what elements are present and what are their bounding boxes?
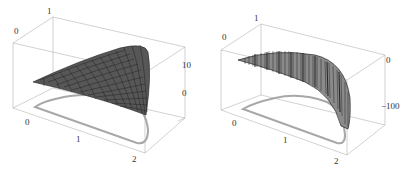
y-tick-0: 0 — [14, 26, 19, 36]
z-tick-10: 10 — [182, 60, 192, 70]
x-tick-2: 2 — [132, 154, 137, 164]
y-tick-0: 0 — [222, 32, 227, 42]
bounding-box — [221, 24, 385, 155]
z-tick-0: 0 — [182, 88, 187, 98]
x-tick-0: 0 — [25, 117, 30, 127]
surface-plot-left: 0 1 10 0 0 1 2 — [0, 0, 205, 171]
surface-plot-right: 0 1 0 −100 0 1 2 — [205, 0, 411, 171]
surface-mesh — [33, 45, 150, 115]
y-tick-1: 1 — [254, 13, 259, 23]
plot-canvas-right: 0 1 0 −100 0 1 2 — [205, 0, 411, 171]
x-tick-2: 2 — [334, 156, 339, 166]
z-tick-minus-100: −100 — [381, 101, 400, 111]
x-tick-1: 1 — [283, 135, 288, 145]
x-tick-0: 0 — [232, 118, 237, 128]
z-tick-0: 0 — [386, 55, 391, 65]
y-tick-1: 1 — [47, 6, 52, 16]
plot-canvas-left: 0 1 10 0 0 1 2 — [0, 0, 205, 171]
x-tick-1: 1 — [76, 134, 81, 144]
surface-mesh — [238, 51, 350, 129]
